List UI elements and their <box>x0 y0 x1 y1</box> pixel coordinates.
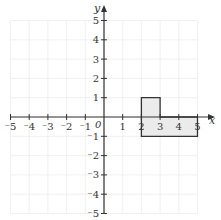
x-tick-label: ⁻4 <box>23 121 35 132</box>
x-tick-label: 4 <box>176 121 182 132</box>
y-tick-label: 2 <box>93 73 99 84</box>
y-tick-label: ⁻1 <box>87 131 99 142</box>
x-tick-label: ⁻3 <box>42 121 54 132</box>
axes <box>11 5 216 214</box>
origin-label: 0 <box>95 119 102 130</box>
y-tick-label: 4 <box>93 34 99 45</box>
x-tick-label: 3 <box>157 121 163 132</box>
x-tick-label: 5 <box>194 121 200 132</box>
x-tick-label: 2 <box>138 121 144 132</box>
y-tick-label: ⁻5 <box>87 208 99 219</box>
x-tick-label: ⁻2 <box>61 121 73 132</box>
x-tick-label: ⁻5 <box>5 121 17 132</box>
y-tick-label: ⁻3 <box>87 169 99 180</box>
y-axis-label: y <box>93 2 101 15</box>
y-tick-label: ⁻4 <box>87 189 99 200</box>
coordinate-plane: ⁻5⁻4⁻3⁻2⁻11234554321⁻1⁻2⁻3⁻4⁻5 x y 0 <box>0 0 221 220</box>
x-tick-label: 1 <box>120 121 126 132</box>
y-tick-label: 1 <box>93 92 99 103</box>
x-axis-label: x <box>209 114 216 127</box>
y-axis-arrow-icon <box>101 5 107 12</box>
y-tick-label: ⁻2 <box>87 150 99 161</box>
y-tick-label: 3 <box>93 54 99 65</box>
y-tick-label: 5 <box>93 15 99 26</box>
